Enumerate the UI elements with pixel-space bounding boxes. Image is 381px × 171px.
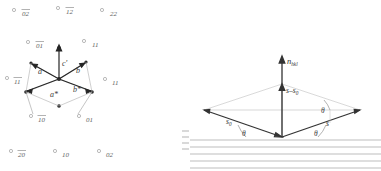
open-lattice-markers — [5, 6, 106, 152]
open-marker — [56, 6, 59, 9]
label-n-hkl: nhkl — [287, 56, 298, 67]
open-marker — [77, 114, 80, 117]
index-label: 22 — [110, 10, 118, 18]
index-label: 11 — [92, 41, 98, 49]
leader-to-10 — [26, 92, 33, 114]
left-panel-svg: a b a* b* c' 02 12 22 01 11 — [0, 0, 190, 171]
label-s-minus-s0: s–s0 — [286, 86, 299, 96]
scattering-vector — [279, 84, 284, 137]
open-marker — [29, 114, 32, 117]
cell-edge-left — [26, 63, 59, 92]
reciprocal-basis-vectors — [27, 79, 91, 93]
vector-c-prime-arrowhead — [56, 45, 61, 51]
figure-canvas: a b a* b* c' 02 12 22 01 11 — [0, 0, 381, 171]
theta-label-incident: θ — [242, 129, 246, 138]
theta-arc-diffracted — [318, 125, 326, 137]
open-marker — [5, 76, 8, 79]
index-label: 10 — [62, 151, 70, 159]
vector-label-a-star: a* — [50, 90, 58, 99]
index-label-group: 20 — [18, 151, 27, 160]
open-marker — [103, 77, 106, 80]
open-marker — [26, 40, 29, 43]
index-label-group: 02 — [22, 10, 31, 19]
vector-s0-arrowhead — [274, 133, 282, 137]
vector-s-minus-s0-arrowhead — [279, 84, 284, 90]
index-label: 11 — [112, 79, 118, 87]
lattice-leader-lines — [26, 92, 92, 114]
index-label: 01 — [36, 42, 43, 50]
lattice-index-labels: 02 12 22 01 11 11 11 — [14, 8, 119, 160]
theta-label-diffracted: θ — [314, 129, 318, 138]
index-label: 11 — [14, 78, 20, 86]
plane-normal-vector — [279, 56, 285, 84]
reciprocal-cell-outline — [26, 79, 92, 106]
index-label: 02 — [106, 151, 114, 159]
vector-a-arrowhead — [32, 64, 38, 68]
open-marker — [82, 39, 85, 42]
open-marker — [12, 8, 15, 11]
open-marker — [9, 149, 12, 152]
vector-label-b-star: b* — [73, 85, 81, 94]
theta-arc-upper — [324, 100, 330, 110]
open-marker — [53, 149, 56, 152]
index-label-group: 10 — [38, 116, 47, 125]
vector-label-c-prime: c' — [62, 59, 68, 68]
label-s: s — [326, 119, 329, 128]
vector-label-a: a — [38, 67, 42, 76]
index-label: 02 — [22, 10, 30, 18]
index-label: 10 — [38, 116, 46, 124]
right-panel-scattering-diagram: nhkl s–s0 s0 s θ θ θ — [190, 0, 381, 171]
index-label: 01 — [86, 116, 93, 124]
index-label-group: 01 — [36, 42, 45, 51]
theta-label-upper: θ — [321, 106, 325, 115]
open-marker — [97, 149, 100, 152]
vector-s0-tail-mark — [204, 109, 210, 113]
vector-label-b: b — [76, 66, 80, 75]
vector-b-arrowhead — [80, 63, 85, 67]
edge-tick-marks — [182, 131, 189, 149]
index-label-group: 12 — [66, 8, 75, 17]
open-marker — [100, 8, 103, 11]
index-label-group: 11 — [14, 78, 23, 87]
vector-s-arrowhead — [354, 109, 360, 113]
vector-n-hkl-arrowhead — [279, 56, 285, 63]
lattice-planes — [190, 140, 381, 168]
right-panel-svg: nhkl s–s0 s0 s θ θ θ — [190, 0, 381, 171]
vector-c-prime — [56, 45, 61, 79]
index-label: 12 — [66, 8, 74, 16]
index-label: 20 — [18, 151, 26, 159]
left-panel-reciprocal-lattice: a b a* b* c' 02 12 22 01 11 — [0, 0, 190, 171]
